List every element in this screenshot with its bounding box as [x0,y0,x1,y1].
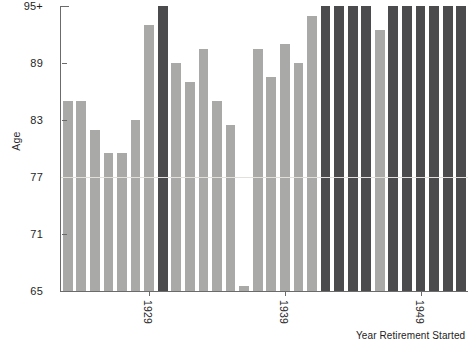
bar [388,6,398,291]
bar [443,6,453,291]
bar [212,101,222,291]
y-axis-tick-label: 77 [30,171,43,183]
bar [334,6,344,291]
x-axis-tick-label: 1939 [278,300,290,324]
y-axis-tick-mark [62,234,67,235]
y-axis-tick-labels: 657177838995+ [0,0,52,339]
bar [104,153,114,291]
y-axis-tick-label: 65 [30,285,43,297]
bar [321,6,331,291]
age-by-retirement-year-bar-chart: Age 657177838995+ Year Retirement Starte… [0,0,469,339]
bar [117,153,127,291]
bar [456,6,466,291]
bar [185,82,195,291]
bar [63,101,73,291]
x-axis-tick-mark [285,292,286,296]
bar [76,101,86,291]
bar [199,49,209,291]
x-axis-tick-label: 1929 [142,300,154,324]
bar [253,49,263,291]
y-axis-tick-label: 89 [30,57,43,69]
bar [90,130,100,292]
plot-area [61,6,468,291]
bar [280,44,290,291]
bar [348,6,358,291]
bar [131,120,141,291]
horizontal-gridline [61,177,468,178]
bar [144,25,154,291]
x-axis-spine [60,291,468,292]
bar [429,6,439,291]
bar [375,30,385,291]
y-axis-tick-label: 71 [30,228,43,240]
bar [416,6,426,291]
x-axis-tick-mark [421,292,422,296]
bar [226,125,236,291]
y-axis-tick-mark [62,120,67,121]
x-axis-tick-mark [149,292,150,296]
bar [361,6,371,291]
bar [239,286,249,291]
bar [266,77,276,291]
y-axis-tick-label: 95+ [24,0,43,12]
bar [402,6,412,291]
bar [158,6,168,291]
y-axis-tick-label: 83 [30,114,43,126]
bar [307,16,317,292]
x-axis-title: Year Retirement Started [356,330,465,339]
x-axis-tick-label: 1949 [414,300,426,324]
y-axis-tick-mark [62,63,67,64]
